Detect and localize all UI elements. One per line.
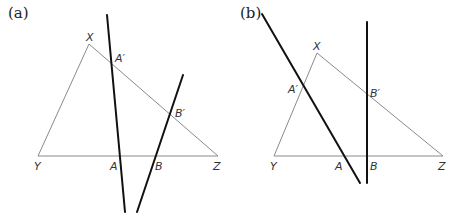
point-label-Y: Y <box>34 160 42 173</box>
triangle-xyz <box>38 44 218 156</box>
panel-label: (a) <box>8 4 29 22</box>
point-label-B: B <box>155 160 163 173</box>
point-label-B-prime: B′ <box>370 87 381 100</box>
point-label-B: B <box>370 160 378 173</box>
point-label-X: X <box>312 40 321 53</box>
line-through-A-Aprime <box>107 15 125 212</box>
point-label-Y: Y <box>270 160 278 173</box>
panel-b: (b)XYZA′B′AB <box>240 4 446 183</box>
panel-label: (b) <box>240 4 261 22</box>
point-label-A-prime: A′ <box>114 52 126 65</box>
panel-a: (a)XYZA′B′AB <box>8 4 221 212</box>
point-label-Z: Z <box>437 160 446 173</box>
point-label-A-prime: A′ <box>287 83 299 96</box>
line-through-B-Bprime <box>137 75 183 212</box>
point-label-X: X <box>85 31 94 44</box>
point-label-B-prime: B′ <box>175 107 186 120</box>
line-through-A-Aprime <box>262 14 360 183</box>
point-label-Z: Z <box>212 160 221 173</box>
point-label-A: A <box>334 160 343 173</box>
triangle-xyz <box>274 53 443 156</box>
point-label-A: A <box>109 160 118 173</box>
geometry-diagram: (a)XYZA′B′AB(b)XYZA′B′AB <box>0 0 465 220</box>
